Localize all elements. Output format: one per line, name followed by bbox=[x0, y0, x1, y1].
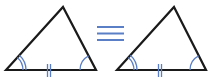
congruence-symbol bbox=[97, 27, 124, 40]
triangle-left bbox=[6, 7, 96, 77]
right-angle-arc bbox=[80, 56, 89, 70]
triangle-right bbox=[117, 7, 206, 77]
right-angle-arc bbox=[190, 56, 199, 70]
congruent-triangles-diagram bbox=[0, 0, 213, 79]
